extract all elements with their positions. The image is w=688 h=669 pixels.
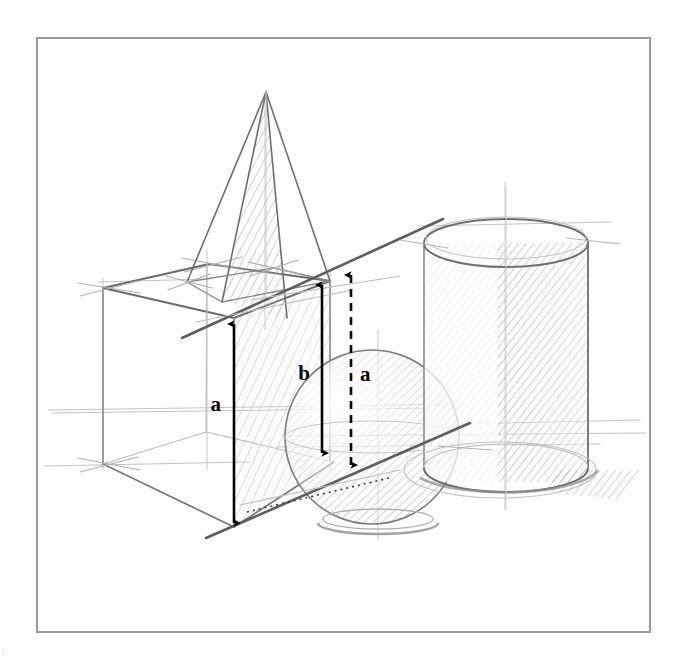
measure-label-a-right: a [360, 362, 371, 386]
measure-label-b-middle: b [298, 361, 310, 385]
pencil-drawing-artboard: a b a [0, 0, 688, 669]
measure-label-a-left: a [211, 392, 222, 416]
screenshot-root: a b a [0, 0, 688, 669]
